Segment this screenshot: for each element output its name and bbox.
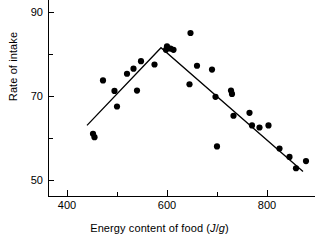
y-tick-label: 50 [31, 174, 43, 186]
data-point [100, 77, 106, 83]
data-point [111, 88, 117, 94]
data-point [186, 81, 192, 87]
plot-area: 507090400600800 [0, 0, 319, 246]
data-point [114, 103, 120, 109]
tick-labels-group: 507090400600800 [31, 6, 276, 211]
y-tick-label: 90 [31, 6, 43, 18]
data-point [293, 165, 299, 171]
data-point [286, 154, 292, 160]
data-point [256, 124, 262, 130]
x-tick-label: 600 [158, 199, 176, 211]
data-point [124, 71, 130, 77]
data-point [246, 110, 252, 116]
x-axis-title-prefix: Energy content of food ( [90, 222, 210, 234]
data-point [91, 134, 97, 140]
x-axis-title-suffix: ) [225, 222, 229, 234]
data-point [209, 66, 215, 72]
data-point [170, 47, 176, 53]
data-point [151, 61, 157, 67]
x-tick-label: 800 [258, 199, 276, 211]
data-point [214, 143, 220, 149]
data-point [212, 94, 218, 100]
data-point [134, 87, 140, 93]
data-point [249, 122, 255, 128]
data-point [276, 145, 282, 151]
y-axis-title: Rate of intake [7, 7, 20, 127]
data-point [130, 66, 136, 72]
data-point [230, 113, 236, 119]
axes-group [48, 0, 315, 196]
data-point [265, 122, 271, 128]
data-point [138, 58, 144, 64]
x-tick-label: 400 [58, 199, 76, 211]
data-point [194, 63, 200, 69]
y-tick-label: 70 [31, 90, 43, 102]
data-point [187, 30, 193, 36]
x-axis-title: Energy content of food (J/g) [0, 222, 319, 235]
data-points-group [90, 30, 309, 171]
data-point [229, 91, 235, 97]
data-point [303, 158, 309, 164]
chart-container: 507090400600800 Energy content of food (… [0, 0, 319, 246]
ticks-group [48, 12, 267, 196]
